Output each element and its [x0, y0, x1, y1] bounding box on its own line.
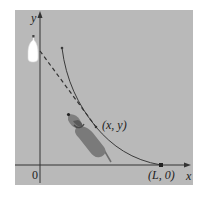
curve-point-dot	[95, 126, 98, 129]
y-axis-arrow-icon	[38, 11, 43, 18]
x-axis	[15, 163, 191, 168]
curve-start-dot	[61, 47, 64, 50]
end-point-label: (L, 0)	[148, 169, 175, 181]
y-axis	[38, 11, 43, 183]
x-axis-arrow-icon	[184, 163, 191, 168]
end-point-marker	[159, 163, 163, 167]
origin-label: 0	[32, 169, 38, 181]
curve-point-label: (x, y)	[102, 119, 127, 131]
pursuit-curve	[62, 48, 161, 165]
bottle-icon	[28, 35, 38, 62]
y-axis-label: y	[31, 12, 36, 24]
x-axis-label: x	[186, 170, 191, 182]
